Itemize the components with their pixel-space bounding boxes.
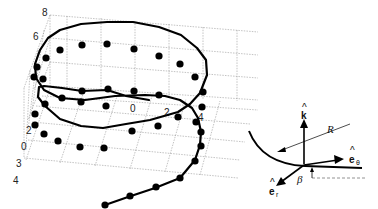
x-tick-0: 0 bbox=[130, 103, 136, 114]
grid-floor bbox=[24, 88, 258, 178]
e-theta-subscript: θ bbox=[356, 159, 360, 166]
beta-label: β bbox=[296, 173, 303, 185]
R-arrowhead bbox=[277, 147, 286, 152]
R-label: R bbox=[326, 123, 334, 135]
z-tick-8: 8 bbox=[42, 7, 48, 18]
k-label: k bbox=[301, 110, 307, 121]
e-r-label: e bbox=[269, 186, 275, 197]
basis-vector-diagram bbox=[249, 119, 365, 186]
z-tick-0: 0 bbox=[21, 141, 27, 152]
beta-arrowhead bbox=[310, 167, 314, 172]
e-theta-label: e bbox=[349, 154, 355, 165]
e-r-subscript: r bbox=[276, 191, 279, 198]
z-tick-6: 6 bbox=[33, 31, 39, 42]
y-tick-4: 4 bbox=[13, 175, 19, 186]
e-theta-arrowhead bbox=[334, 155, 344, 164]
y-tick-3: 3 bbox=[16, 158, 22, 169]
z-tick-2: 2 bbox=[26, 125, 32, 136]
e-r-arrowhead bbox=[276, 177, 286, 186]
trajectory-arc bbox=[249, 131, 362, 168]
helix-diagram: 8 6 2 0 3 4 0 2 4 bbox=[0, 0, 378, 209]
